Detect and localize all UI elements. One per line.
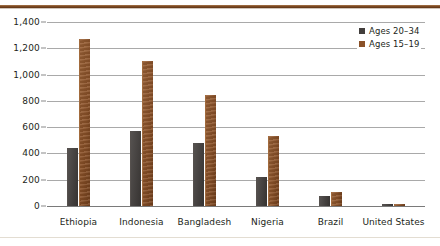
y-tick-mark-600	[41, 127, 46, 128]
bar-bangladesh-series-0[interactable]	[193, 143, 204, 206]
y-axis-label-600: 600	[22, 122, 40, 132]
x-axis-label-brazil: Brazil	[299, 217, 362, 227]
y-tick-mark-1200	[41, 48, 46, 49]
bar-ethiopia-series-0[interactable]	[67, 148, 78, 206]
bar-nigeria-series-0[interactable]	[256, 177, 267, 206]
bottom-decorative-rule	[0, 237, 440, 238]
bar-group: Brazil	[299, 22, 362, 206]
legend-swatch-ages-20-34	[359, 28, 365, 34]
bar-group: Ethiopia	[47, 22, 110, 206]
y-tick-mark-1000	[41, 74, 46, 75]
bar-group: Nigeria	[236, 22, 299, 206]
x-axis-label-indonesia: Indonesia	[110, 217, 173, 227]
x-axis-label-ethiopia: Ethiopia	[47, 217, 110, 227]
legend-swatch-ages-15-19	[359, 41, 365, 47]
bar-brazil-series-1[interactable]	[331, 192, 342, 206]
bar-nigeria-series-1[interactable]	[268, 136, 279, 206]
chart-page: 02004006008001,0001,2001,400 EthiopiaInd…	[0, 0, 440, 246]
legend-item-ages-15-19[interactable]: Ages 15–19	[359, 39, 419, 49]
bar-pair	[173, 22, 236, 206]
x-axis-label-bangladesh: Bangladesh	[173, 217, 236, 227]
legend-label-ages-20-34: Ages 20–34	[369, 26, 419, 36]
chart-legend: Ages 20–34 Ages 15–19	[357, 25, 421, 51]
gridline-0: 0	[47, 206, 425, 207]
bar-indonesia-series-1[interactable]	[142, 61, 153, 206]
y-tick-mark-200	[41, 179, 46, 180]
x-axis-label-nigeria: Nigeria	[236, 217, 299, 227]
bar-group: Bangladesh	[173, 22, 236, 206]
y-axis-label-0: 0	[34, 201, 40, 211]
y-axis-label-1200: 1,200	[13, 43, 40, 53]
bar-ethiopia-series-1[interactable]	[79, 39, 90, 206]
bar-bangladesh-series-1[interactable]	[205, 95, 216, 206]
y-axis-label-200: 200	[22, 175, 40, 185]
bar-pair	[47, 22, 110, 206]
legend-item-ages-20-34[interactable]: Ages 20–34	[359, 26, 419, 36]
y-tick-mark-0	[41, 206, 46, 207]
x-axis-label-united-states: United States	[362, 217, 425, 227]
bar-pair	[236, 22, 299, 206]
y-axis-label-400: 400	[22, 148, 40, 158]
y-tick-mark-800	[41, 100, 46, 101]
bar-pair	[110, 22, 173, 206]
bar-indonesia-series-0[interactable]	[130, 131, 141, 206]
y-tick-mark-400	[41, 153, 46, 154]
bar-group: Indonesia	[110, 22, 173, 206]
y-tick-mark-1400	[41, 22, 46, 23]
top-decorative-rule-shadow	[0, 8, 440, 9]
bar-pair	[299, 22, 362, 206]
y-axis-label-1000: 1,000	[13, 70, 40, 80]
bar-brazil-series-0[interactable]	[319, 196, 330, 207]
y-axis-label-1400: 1,400	[13, 17, 40, 27]
bar-united-states-series-1[interactable]	[394, 204, 405, 206]
y-axis-label-800: 800	[22, 96, 40, 106]
bar-united-states-series-0[interactable]	[382, 204, 393, 206]
legend-label-ages-15-19: Ages 15–19	[369, 39, 419, 49]
